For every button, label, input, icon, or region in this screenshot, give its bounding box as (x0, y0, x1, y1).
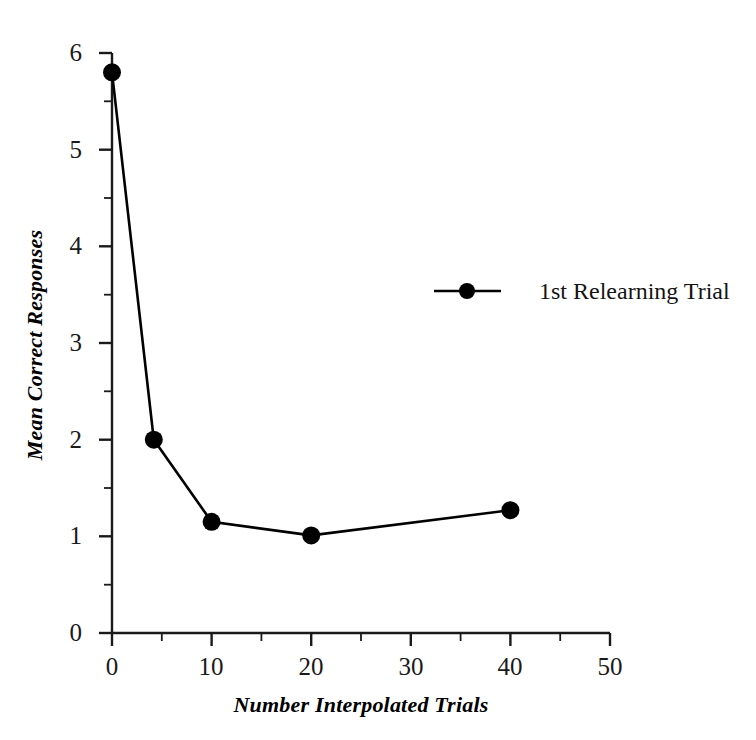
y-major-ticks (99, 53, 112, 633)
x-tick-label: 20 (281, 654, 341, 679)
data-point-marker (302, 526, 320, 544)
chart-plot-area (0, 0, 756, 740)
data-point-marker (103, 63, 121, 81)
chart-figure: 0 1 2 3 4 5 6 0 10 20 30 40 50 Mean Corr… (0, 0, 756, 740)
y-tick-label: 6 (36, 40, 82, 65)
x-tick-label: 40 (480, 654, 540, 679)
x-tick-label: 10 (181, 654, 241, 679)
x-tick-label: 50 (580, 654, 640, 679)
y-tick-label: 0 (36, 620, 82, 645)
x-axis-title: Number Interpolated Trials (211, 692, 511, 718)
legend-sample-0 (434, 283, 501, 299)
x-tick-label: 0 (82, 654, 142, 679)
y-tick-label: 5 (36, 137, 82, 162)
legend-entry-label: 1st Relearning Trial (539, 278, 730, 305)
series-line-1st-relearning-trial (112, 72, 510, 535)
series-markers-1st-relearning-trial (103, 63, 519, 544)
data-point-marker (145, 431, 163, 449)
data-point-marker (203, 513, 221, 531)
x-tick-label: 30 (381, 654, 441, 679)
y-axis-title: Mean Correct Responses (22, 195, 48, 495)
y-tick-label: 1 (36, 523, 82, 548)
data-point-marker (501, 501, 519, 519)
filled-circle-marker-icon (459, 283, 475, 299)
